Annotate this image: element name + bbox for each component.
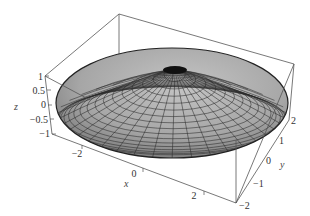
y-axis-label: y (279, 159, 285, 170)
z-tick-0: 0 (41, 99, 46, 110)
z-axis: 1 0.5 0 −0.5 −1 z (13, 71, 56, 139)
x-tick-2: 2 (192, 190, 197, 201)
ellipsoid-surface (54, 48, 291, 162)
z-tick-0.5: 0.5 (33, 85, 46, 96)
x-tick-neg2: −2 (72, 148, 83, 159)
y-tick-2: 2 (291, 115, 296, 126)
y-tick-neg2: −2 (239, 200, 250, 211)
pole-mesh-convergence (163, 66, 187, 74)
ellipsoid-3d-plot: 1 0.5 0 −0.5 −1 z −2 0 2 x −2 −1 0 1 2 y (0, 0, 310, 216)
z-tick-1: 1 (38, 71, 43, 82)
z-tick-neg1: −1 (39, 128, 50, 139)
y-tick-neg1: −1 (253, 178, 264, 189)
x-axis-label: x (123, 178, 129, 189)
z-tick-neg0.5: −0.5 (30, 114, 48, 125)
y-tick-1: 1 (279, 135, 284, 146)
z-axis-label: z (13, 101, 18, 112)
y-tick-0: 0 (266, 155, 271, 166)
x-tick-0: 0 (132, 168, 137, 179)
